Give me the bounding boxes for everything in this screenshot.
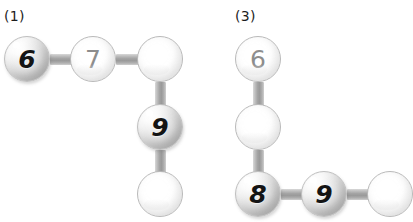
node-1-a-value: 6 bbox=[5, 37, 49, 81]
node-1-c[interactable] bbox=[137, 36, 183, 82]
node-1-a[interactable]: 6 bbox=[4, 36, 50, 82]
node-3-d[interactable]: 9 bbox=[301, 171, 347, 217]
node-1-b[interactable]: 7 bbox=[70, 36, 116, 82]
node-1-e[interactable] bbox=[137, 171, 183, 217]
group-label-2: (3) bbox=[235, 8, 256, 24]
node-3-c-value: 8 bbox=[236, 172, 280, 216]
node-3-b[interactable] bbox=[235, 104, 281, 150]
node-1-d-value: 9 bbox=[138, 105, 182, 149]
node-3-a[interactable]: 6 bbox=[235, 36, 281, 82]
group-label-1: (1) bbox=[4, 8, 25, 24]
node-1-d[interactable]: 9 bbox=[137, 104, 183, 150]
node-3-e[interactable] bbox=[367, 171, 413, 217]
node-3-c[interactable]: 8 bbox=[235, 171, 281, 217]
node-3-a-value: 6 bbox=[236, 37, 280, 81]
node-1-b-value: 7 bbox=[71, 37, 115, 81]
node-3-d-value: 9 bbox=[302, 172, 346, 216]
